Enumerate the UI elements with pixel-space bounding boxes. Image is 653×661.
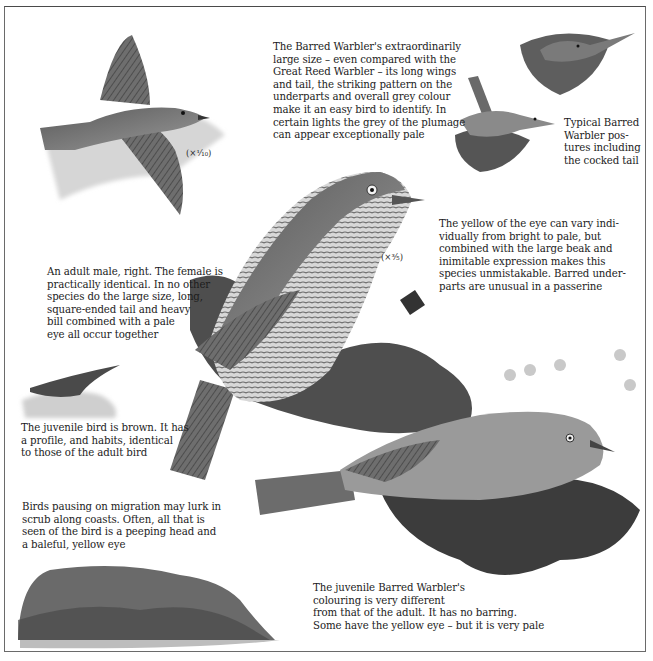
scale-label-main: (×³⁄₅)	[381, 252, 403, 262]
caption-adult-male: An adult male, right. The female is prac…	[47, 266, 223, 342]
scale-label-flight: (×¹⁄₁₀)	[186, 148, 211, 158]
posture-top-illustration	[520, 33, 635, 95]
scrub-illustration	[18, 566, 280, 648]
flying-adult-illustration	[40, 35, 225, 215]
juvenile-flight-illustration	[22, 365, 120, 418]
caption-juvenile-flight: The juvenile bird is brown. It has a pro…	[21, 422, 189, 460]
caption-eye: The yellow of the eye can vary indi- vid…	[439, 218, 626, 294]
caption-intro: The Barred Warbler's extraordinarily lar…	[273, 41, 465, 142]
caption-migration: Birds pausing on migration may lurk in s…	[22, 501, 221, 551]
caption-postures: Typical Barred Warbler pos- tures includ…	[564, 117, 641, 167]
posture-cocked-tail-illustration	[455, 76, 555, 172]
caption-juvenile: The juvenile Barred Warbler's colouring …	[313, 582, 544, 632]
